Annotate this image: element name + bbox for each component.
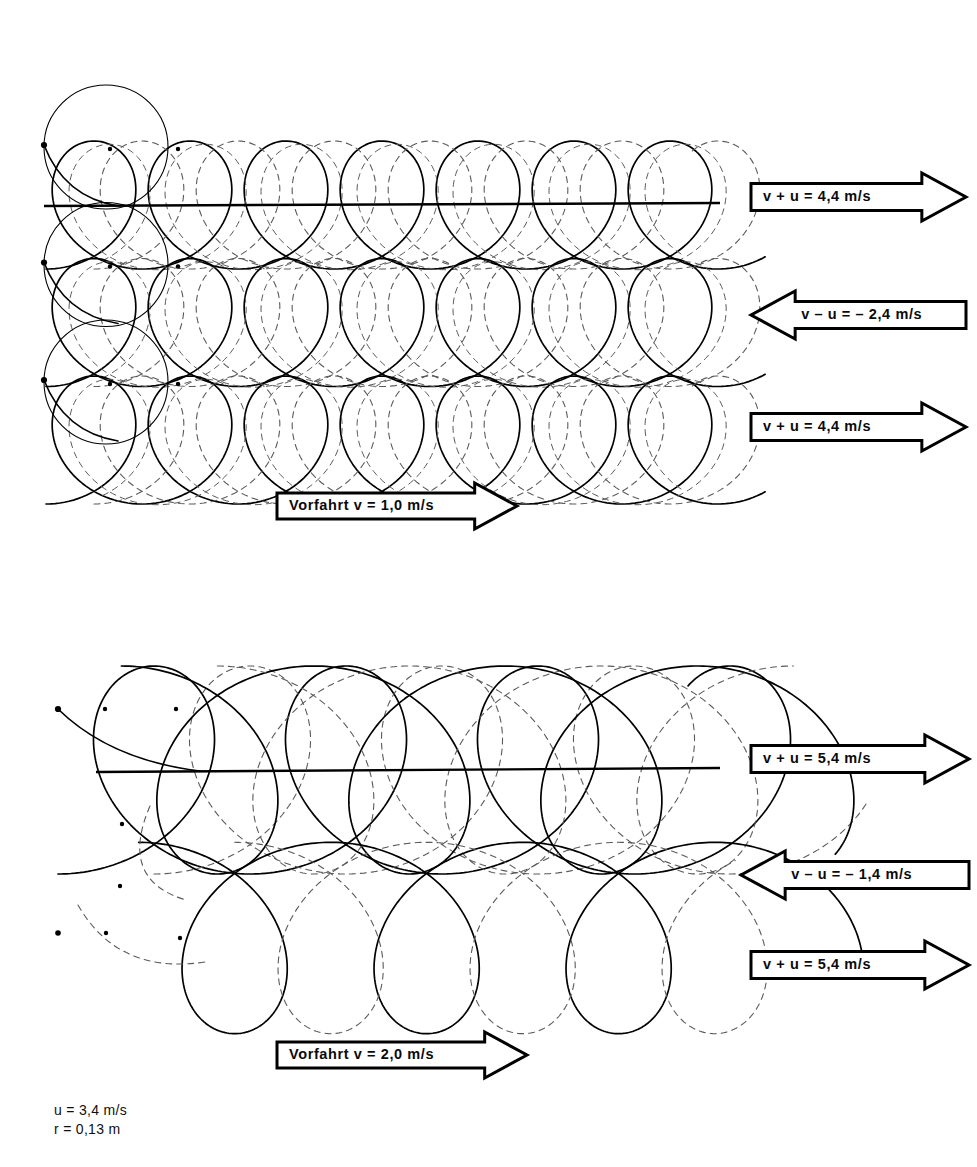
tool-center-dot	[118, 884, 122, 888]
tool-center-dot	[108, 382, 112, 386]
legend-line-r: r = 0,13 m	[54, 1120, 127, 1139]
trajectory-svg	[0, 0, 977, 1167]
tool-center-dot	[176, 264, 180, 268]
tool-center-dot	[120, 822, 124, 826]
tool-center-dot	[176, 382, 180, 386]
start-marker-dot	[55, 930, 61, 936]
start-marker-dot	[41, 377, 47, 383]
diagram-canvas	[0, 0, 977, 1167]
start-marker-dot	[41, 142, 47, 148]
tool-center-dot	[178, 936, 182, 940]
legend-line-u: u = 3,4 m/s	[54, 1101, 127, 1120]
background-rect	[0, 0, 977, 1167]
tool-center-dot	[108, 264, 112, 268]
tool-center-dot	[108, 147, 112, 151]
start-marker-dot	[55, 706, 61, 712]
tool-center-dot	[176, 147, 180, 151]
tool-center-dot	[174, 707, 178, 711]
legend-block: u = 3,4 m/s r = 0,13 m	[54, 1101, 127, 1139]
tool-center-dot	[103, 707, 107, 711]
tool-center-dot	[104, 931, 108, 935]
start-marker-dot	[41, 259, 47, 265]
